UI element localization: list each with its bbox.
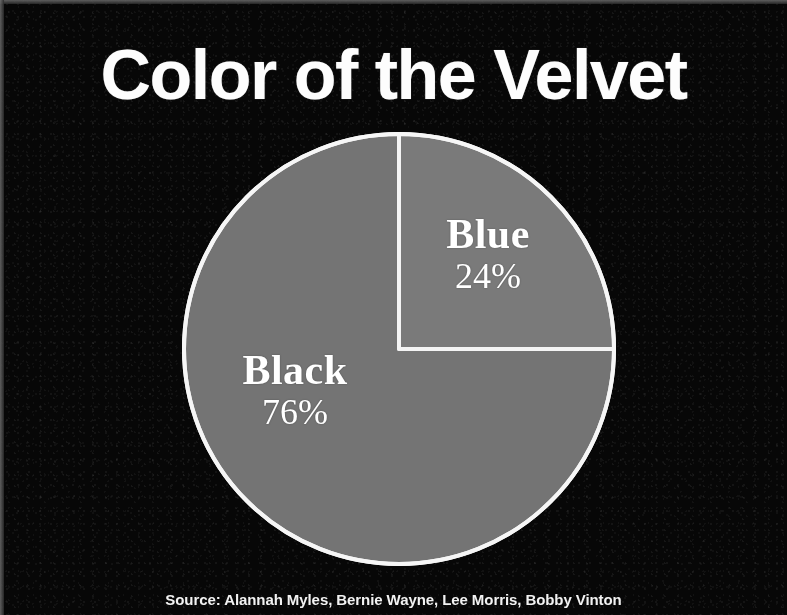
pie-label-black-percent: 76%: [180, 392, 410, 432]
slide-canvas: Color of the Velvet Blue 24% Black 76% S…: [0, 0, 787, 615]
pie-label-blue-name: Blue: [398, 212, 578, 256]
source-note: Source: Alannah Myles, Bernie Wayne, Lee…: [12, 590, 775, 609]
pie-label-black: Black 76%: [180, 348, 410, 432]
pie-label-black-name: Black: [180, 348, 410, 392]
pie-chart: Blue 24% Black 76%: [0, 0, 787, 615]
pie-label-blue: Blue 24%: [398, 212, 578, 296]
pie-chart-svg: [0, 0, 787, 615]
pie-label-blue-percent: 24%: [398, 256, 578, 296]
